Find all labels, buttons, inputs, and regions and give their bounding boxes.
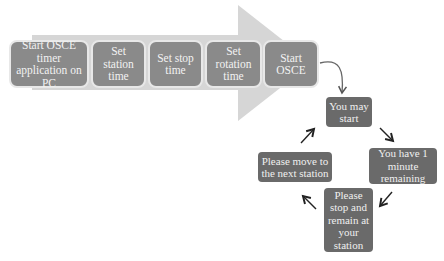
step-start-osce: Start OSCE bbox=[263, 40, 319, 88]
cycle-one-minute-remaining: You have 1 minute remaining bbox=[369, 148, 437, 184]
step-start-app: Start OSCE timer application on PC bbox=[9, 40, 89, 88]
cycle-move-to-next-station: Please move to the next station bbox=[258, 152, 332, 182]
cycle-you-may-start: You may start bbox=[326, 97, 372, 127]
step-set-station-time: Set station time bbox=[91, 40, 146, 88]
step-set-stop-time: Set stop time bbox=[148, 40, 203, 88]
step-set-rotation-time: Set rotation time bbox=[205, 40, 262, 88]
cycle-stop-and-remain: Please stop and remain at your station bbox=[324, 188, 373, 252]
